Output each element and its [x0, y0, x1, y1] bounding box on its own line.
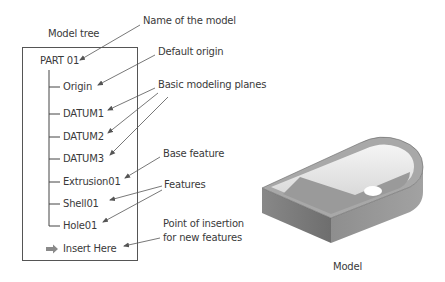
model-3d-part [262, 137, 423, 243]
callout-arrows [80, 25, 168, 246]
tree-connectors [49, 70, 60, 226]
diagram-graphics [0, 0, 445, 282]
insert-arrow-icon [46, 245, 58, 254]
